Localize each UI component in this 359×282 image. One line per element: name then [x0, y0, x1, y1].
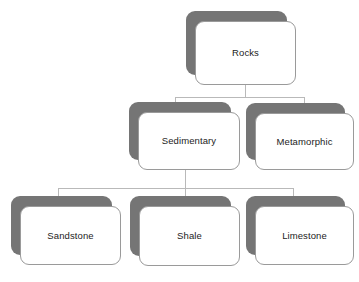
connector-rocks-stem — [245, 85, 246, 97]
node-rocks-card[interactable]: Rocks — [195, 21, 296, 85]
node-sedimentary-label: Sedimentary — [162, 136, 216, 146]
node-sandstone-card[interactable]: Sandstone — [20, 206, 121, 265]
node-sedimentary[interactable]: Sedimentary — [129, 102, 231, 160]
diagram-canvas: Rocks Sedimentary Metamorphic Sandstone … — [0, 0, 359, 282]
node-sandstone[interactable]: Sandstone — [11, 196, 112, 255]
connector-sedimentary-bus — [58, 188, 294, 189]
connector-sedimentary-stem — [185, 170, 186, 188]
node-limestone[interactable]: Limestone — [246, 196, 345, 255]
node-metamorphic-card[interactable]: Metamorphic — [255, 113, 354, 170]
node-metamorphic[interactable]: Metamorphic — [246, 103, 345, 160]
node-sandstone-label: Sandstone — [47, 231, 93, 241]
node-rocks[interactable]: Rocks — [186, 11, 287, 75]
connector-rocks-bus — [175, 97, 305, 98]
node-limestone-card[interactable]: Limestone — [255, 206, 354, 265]
node-shale-label: Shale — [177, 231, 202, 241]
node-shale-card[interactable]: Shale — [139, 206, 240, 266]
node-sedimentary-card[interactable]: Sedimentary — [138, 112, 240, 170]
node-shale[interactable]: Shale — [130, 196, 231, 256]
node-limestone-label: Limestone — [282, 231, 327, 241]
node-metamorphic-label: Metamorphic — [276, 137, 332, 147]
node-rocks-label: Rocks — [232, 48, 259, 58]
